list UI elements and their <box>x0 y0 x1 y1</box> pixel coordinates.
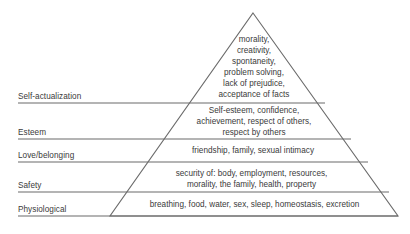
tier-content-line: morality, the family, health, property <box>130 179 373 190</box>
tier-content-esteem: Self-esteem, confidence, achievement, re… <box>158 105 350 138</box>
tier-content-line: problem solving, <box>168 67 340 78</box>
tier-content-line: spontaneity, <box>168 56 340 67</box>
tier-content-line: friendship, family, sexual intimacy <box>148 145 358 156</box>
tier-content-line: lack of prejudice, <box>168 78 340 89</box>
tier-content-self-actualization: morality, creativity, spontaneity, probl… <box>168 34 340 101</box>
tier-label-self-actualization: Self-actualization <box>18 93 81 101</box>
tier-content-line: acceptance of facts <box>168 89 340 100</box>
tier-content-line: creativity, <box>168 45 340 56</box>
tier-label-physiological: Physiological <box>18 206 66 214</box>
tier-content-physiological: breathing, food, water, sex, sleep, home… <box>113 199 396 210</box>
tier-content-line: achievement, respect of others, <box>158 116 350 127</box>
tier-content-line: respect by others <box>158 127 350 138</box>
tier-content-line: breathing, food, water, sex, sleep, home… <box>113 199 396 210</box>
tier-content-line: morality, <box>168 34 340 45</box>
tier-label-safety: Safety <box>18 182 42 190</box>
tier-content-line: Self-esteem, confidence, <box>158 105 350 116</box>
tier-content-safety: security of: body, employment, resources… <box>130 168 373 190</box>
tier-content-love-belonging: friendship, family, sexual intimacy <box>148 145 358 156</box>
tier-content-line: security of: body, employment, resources… <box>130 168 373 179</box>
tier-label-love-belonging: Love/belonging <box>18 152 74 160</box>
tier-label-esteem: Esteem <box>18 129 46 137</box>
maslow-hierarchy-diagram: Self-actualization Esteem Love/belonging… <box>0 0 410 234</box>
